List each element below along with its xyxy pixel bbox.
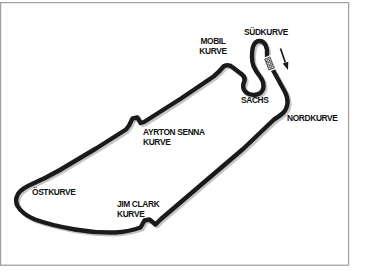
label-jim-clark-kurve: JIM CLARK KURVE bbox=[117, 199, 159, 218]
circuit-map: SÜDKURVE MOBIL KURVE SACHS NORDKURVE AYR… bbox=[0, 0, 366, 277]
label-nordkurve: NORDKURVE bbox=[287, 113, 338, 123]
label-senna-line2: KURVE bbox=[143, 137, 205, 147]
race-direction-arrow-icon bbox=[281, 49, 289, 71]
label-sudkurve: SÜDKURVE bbox=[244, 27, 288, 37]
label-ayrton-senna-kurve: AYRTON SENNA KURVE bbox=[143, 127, 205, 146]
label-sachs: SACHS bbox=[241, 95, 269, 105]
label-mobil-line2: KURVE bbox=[199, 46, 227, 56]
label-mobil-kurve: MOBIL KURVE bbox=[199, 36, 227, 55]
label-jim-clark-line2: KURVE bbox=[117, 209, 159, 219]
start-finish-marker bbox=[263, 55, 277, 72]
label-ostkurve: ÖSTKURVE bbox=[32, 187, 75, 197]
